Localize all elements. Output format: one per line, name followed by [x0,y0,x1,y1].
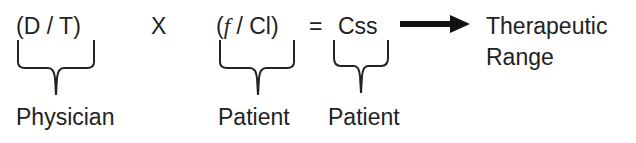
term-f-over-cl: (f / Cl) [216,13,279,40]
brace-patient-clearance [220,40,294,95]
operator-times: X [151,13,166,39]
outcome-line2: Range [486,44,554,70]
operator-equals: = [309,13,322,39]
arrow-head-icon [450,15,470,33]
label-patient-clearance: Patient [218,104,290,130]
outcome-line1: Therapeutic [486,13,607,39]
term-css: Css [338,13,378,39]
label-patient-css: Patient [328,104,400,130]
label-physician: Physician [16,104,114,130]
brace-patient-css [334,40,388,93]
term-dose-over-tau: (D / T) [16,13,81,39]
brace-physician [18,40,94,95]
